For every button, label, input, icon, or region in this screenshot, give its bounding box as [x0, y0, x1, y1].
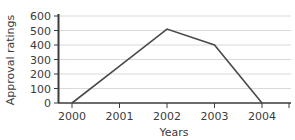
x-tick-label-2000: 2000	[58, 110, 86, 123]
y-tick-label-500: 500	[30, 25, 51, 38]
chart-svg: 600 500 400 300 200 100 0 2000 2001 2002…	[0, 0, 295, 140]
x-tick-label-2004: 2004	[248, 110, 276, 123]
y-tick-label-400: 400	[30, 39, 51, 52]
y-tick-label-200: 200	[30, 68, 51, 81]
y-tick-label-600: 600	[30, 10, 51, 23]
y-tick-label-0: 0	[44, 97, 51, 110]
x-tick-label-2003: 2003	[201, 110, 229, 123]
y-axis-title: Approval ratings	[4, 14, 17, 105]
y-tick-label-100: 100	[30, 83, 51, 96]
x-tick-label-2002: 2002	[153, 110, 181, 123]
x-axis-title: Years	[158, 126, 188, 139]
x-tick-label-2001: 2001	[106, 110, 134, 123]
y-tick-label-300: 300	[30, 54, 51, 67]
line-chart: 600 500 400 300 200 100 0 2000 2001 2002…	[0, 0, 295, 140]
y-tick-labels: 600 500 400 300 200 100 0	[30, 10, 51, 110]
